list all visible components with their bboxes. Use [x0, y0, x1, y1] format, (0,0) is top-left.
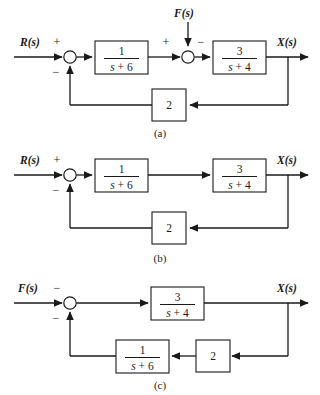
panel-c: F(s) − − 3 s + 4 X(s) 2 1 s + 6 (c)	[0, 268, 320, 395]
panel-a-block1-den-op: +	[115, 61, 127, 73]
panel-a-block1-numerator: 1	[119, 45, 125, 57]
panel-b-block2-denominator: s + 4	[228, 179, 251, 191]
panel-a-block1-denominator: s + 6	[110, 61, 133, 73]
panel-b-sum1-sign-top: +	[54, 153, 61, 167]
panel-a-sum1-sign-bottom: −	[53, 65, 60, 79]
panel-a-block2-den-const: 4	[245, 61, 251, 73]
panel-a-sum2-sign-left: +	[163, 35, 170, 49]
panel-c-feedback-denominator: s + 6	[131, 360, 154, 372]
panel-b-block1-denominator: s + 6	[110, 179, 133, 191]
panel-a-input-label: R(s)	[19, 36, 40, 49]
panel-a-sum2	[182, 51, 194, 63]
panel-a-sum1	[64, 51, 76, 63]
panel-b-block2-den-const: 4	[245, 179, 251, 191]
panel-a-output-label: X(s)	[276, 36, 297, 49]
panel-b-sum1	[64, 169, 76, 181]
panel-a-block1-den-const: 6	[127, 61, 133, 73]
panel-b-block2-den-op: +	[233, 179, 245, 191]
panel-c-forward-denominator: s + 4	[166, 307, 189, 319]
panel-b-block2-numerator: 3	[237, 163, 243, 175]
panel-b-input-label: R(s)	[19, 154, 40, 167]
panel-c-gain-value: 2	[210, 350, 216, 362]
panel-c-input-label: F(s)	[17, 282, 38, 295]
panel-c-sum1-sign-bottom: −	[53, 311, 60, 325]
panel-a-caption: (a)	[154, 127, 167, 140]
panel-c-forward-den-const: 4	[183, 307, 189, 319]
panel-a-sum1-sign-top: +	[54, 35, 61, 49]
panel-b-block1-den-const: 6	[127, 179, 133, 191]
panel-a-block2-numerator: 3	[237, 45, 243, 57]
panel-b-gain-value: 2	[166, 222, 172, 234]
panel-c-sum1	[64, 297, 76, 309]
panel-a-gain-value: 2	[166, 99, 172, 111]
panel-b-caption: (b)	[154, 252, 167, 265]
panel-b-block1-den-op: +	[115, 179, 127, 191]
panel-c-feedback-numerator: 1	[140, 344, 146, 356]
panel-a-disturbance-label: F(s)	[173, 7, 194, 20]
panel-b-block1-numerator: 1	[119, 163, 125, 175]
panel-a-block2-denominator: s + 4	[228, 61, 251, 73]
panel-c-forward-den-op: +	[171, 307, 183, 319]
panel-c-forward-numerator: 3	[175, 291, 181, 303]
panel-c-sum1-sign-top: −	[54, 281, 61, 295]
panel-c-output-label: X(s)	[276, 282, 297, 295]
panel-a-sum2-sign-right: −	[198, 35, 205, 49]
panel-a-block2-den-op: +	[233, 61, 245, 73]
panel-b-output-label: X(s)	[276, 154, 297, 167]
panel-b: R(s) + − 1 s + 6 3 s + 4 X(s) 2 (b)	[0, 140, 320, 268]
panel-a: R(s) + − 1 s + 6 + − F(s) 3 s	[0, 0, 320, 140]
panel-c-feedback-den-op: +	[136, 360, 148, 372]
block-diagram-figure: R(s) + − 1 s + 6 + − F(s) 3 s	[0, 0, 320, 395]
panel-b-sum1-sign-bottom: −	[53, 183, 60, 197]
panel-c-feedback-den-const: 6	[148, 360, 154, 372]
panel-c-caption: (c)	[154, 379, 167, 392]
